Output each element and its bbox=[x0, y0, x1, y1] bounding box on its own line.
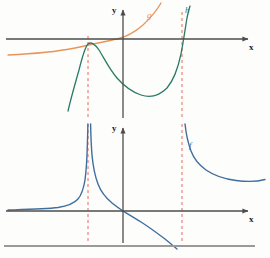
curve-f-label: f bbox=[189, 140, 193, 150]
calculus-figure-container: x y g h x y f bbox=[0, 0, 270, 258]
top-x-axis-label: x bbox=[249, 42, 254, 52]
curve-g-label: g bbox=[147, 10, 152, 20]
curve-g bbox=[8, 3, 161, 55]
bottom-y-axis-label: y bbox=[112, 123, 117, 133]
figure-svg: x y g h x y f bbox=[0, 0, 270, 258]
top-y-axis-label: y bbox=[112, 5, 117, 15]
lower-coordinate-plane: x y f bbox=[6, 123, 265, 249]
upper-coordinate-plane: x y g h bbox=[6, 3, 254, 120]
curve-h bbox=[68, 6, 190, 111]
bottom-x-axis-label: x bbox=[249, 214, 254, 224]
curve-h-label: h bbox=[185, 5, 190, 15]
curve-f-right-branch bbox=[185, 124, 265, 181]
curve-f-left-branch bbox=[8, 124, 88, 210]
curve-f-middle-branch bbox=[91, 124, 177, 249]
